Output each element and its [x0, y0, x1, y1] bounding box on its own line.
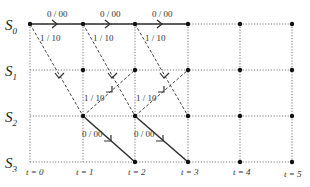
node-s2-t3	[186, 114, 190, 118]
edge-label-s2-s3-t1: 0 / 00	[82, 129, 103, 139]
edge-s2-s3-t1	[83, 116, 135, 162]
node-s0-t3	[186, 22, 190, 26]
node-s1-t4	[238, 68, 242, 72]
time-label-t0: t = 0	[26, 167, 44, 177]
arrow-icon	[108, 73, 117, 78]
arrow-icon	[160, 73, 169, 78]
edge-label-s0-s0-t1: 0 / 00	[100, 9, 121, 19]
edge-label-s0-s2-t1: 1 / 10	[93, 33, 114, 43]
time-label-t5: t = 5	[284, 169, 302, 179]
node-s0-t0	[28, 22, 32, 26]
node-s2-t4	[238, 114, 242, 118]
node-s0-t1	[81, 22, 85, 26]
edge-label-s2-s1-t1: 1 / 10	[84, 93, 105, 103]
node-s0-t2	[133, 22, 137, 26]
node-s3-t2	[133, 160, 137, 164]
node-s2-t5	[290, 114, 294, 118]
time-label-t4: t = 4	[233, 167, 251, 177]
time-label-t1: t = 1	[76, 167, 94, 177]
node-s3-t3	[186, 160, 190, 164]
node-s1-t2	[133, 68, 137, 72]
time-label-t2: t = 2	[128, 167, 146, 177]
node-s0-t4	[238, 22, 242, 26]
edge-label-s0-s0-t2: 0 / 00	[152, 9, 173, 19]
edge-label-s0-s0-t0: 0 / 00	[47, 9, 68, 19]
state-label-s3: S3	[5, 155, 18, 174]
edge-s2-s3-t2	[135, 116, 188, 162]
nodes	[28, 22, 294, 164]
node-s2-t2	[133, 114, 137, 118]
state-labels: S0 S1 S2 S3	[5, 17, 18, 174]
edge-label-s0-s2-t2: 1 / 10	[145, 33, 166, 43]
arrow-icon	[55, 73, 64, 78]
node-s1-t5	[290, 68, 294, 72]
edge-label-s0-s2-t0: 1 / 10	[40, 33, 61, 43]
state-label-s2: S2	[5, 109, 18, 128]
trellis-diagram: S0 S1 S2 S3 0 / 00 0 / 00 0 / 00 1 / 10 …	[0, 0, 310, 187]
node-s1-t3	[186, 68, 190, 72]
edge-label-s2-s3-t2: 0 / 00	[134, 129, 155, 139]
edge-label-s2-s1-t2: 1 / 10	[136, 93, 157, 103]
node-s2-t1	[81, 114, 85, 118]
edges-s0-to-s0	[30, 20, 188, 28]
node-s1-t1	[81, 68, 85, 72]
time-labels: t = 0 t = 1 t = 2 t = 3 t = 4 t = 5	[26, 167, 302, 179]
node-s3-t4	[238, 160, 242, 164]
node-s0-t5	[290, 22, 294, 26]
state-label-s0: S0	[5, 17, 18, 36]
state-label-s1: S1	[5, 63, 17, 82]
arrows-s0-to-s2	[55, 73, 169, 78]
time-label-t3: t = 3	[181, 167, 199, 177]
node-s3-t5	[290, 160, 294, 164]
edge-labels: 0 / 00 0 / 00 0 / 00 1 / 10 1 / 10 1 / 1…	[40, 9, 173, 139]
